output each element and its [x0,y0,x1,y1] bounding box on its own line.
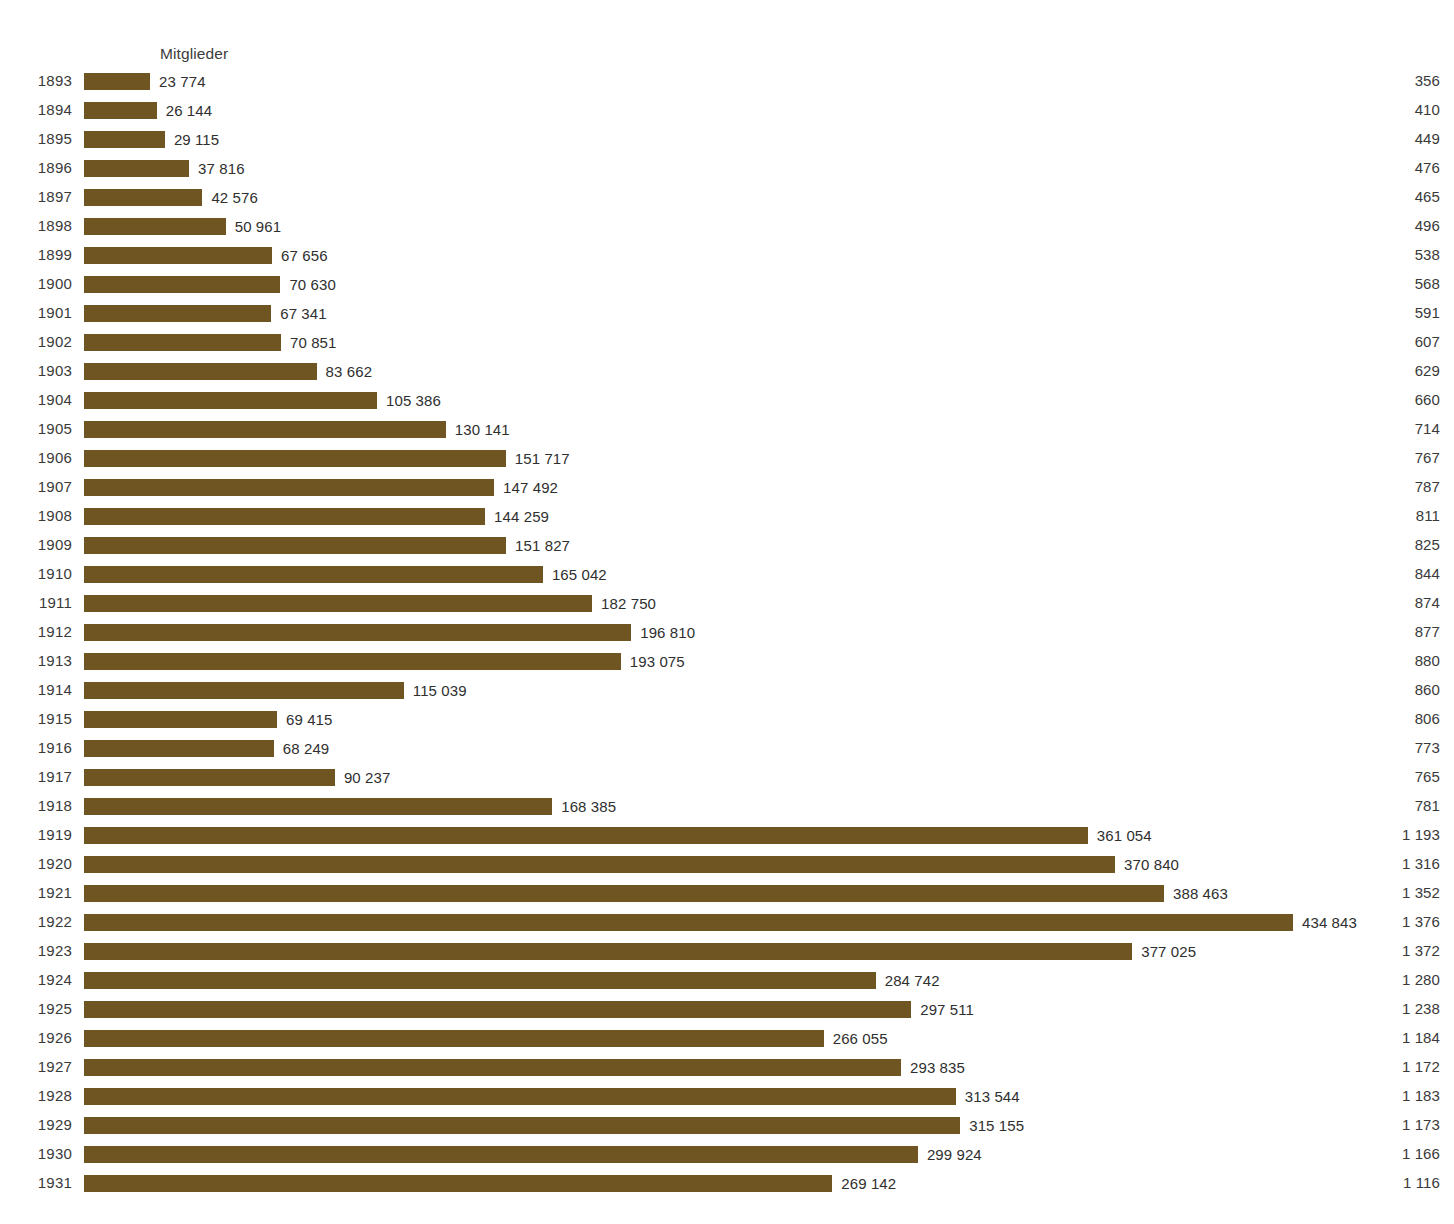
row-right-value: 496 [1415,217,1440,235]
chart-row: 1905130 141714 [0,420,1454,449]
bar-value-label: 90 237 [344,769,390,786]
bar-value-label: 370 840 [1124,856,1179,873]
chart-rows: 189323 774356189426 144410189529 1154491… [0,72,1454,1203]
row-right-value: 844 [1415,565,1440,583]
row-year-label: 1893 [0,72,72,90]
row-right-value: 767 [1415,449,1440,467]
bar-container: 165 042 [84,566,607,583]
bar-container: 67 656 [84,247,328,264]
bar-value-label: 151 717 [515,450,570,467]
row-year-label: 1896 [0,159,72,177]
bar-container: 196 810 [84,624,695,641]
bar-value-label: 69 415 [286,711,332,728]
chart-row: 1906151 717767 [0,449,1454,478]
bar [84,595,592,612]
bar-container: 70 851 [84,334,336,351]
bar [84,943,1132,960]
chart-row: 1922434 8431 376 [0,913,1454,942]
bar-value-label: 182 750 [601,595,656,612]
bar-container: 293 835 [84,1059,965,1076]
bar [84,102,157,119]
bar-value-label: 165 042 [552,566,607,583]
bar-value-label: 70 851 [290,334,336,351]
row-right-value: 773 [1415,739,1440,757]
bar-container: 313 544 [84,1088,1020,1105]
bar-container: 50 961 [84,218,281,235]
chart-row: 1925297 5111 238 [0,1000,1454,1029]
bar-value-label: 23 774 [159,73,205,90]
bar [84,479,494,496]
bar [84,827,1088,844]
chart-row: 1921388 4631 352 [0,884,1454,913]
bar [84,189,202,206]
chart-row: 191668 249773 [0,739,1454,768]
row-year-label: 1904 [0,391,72,409]
row-right-value: 476 [1415,159,1440,177]
bar-container: 388 463 [84,885,1228,902]
bar-value-label: 388 463 [1173,885,1228,902]
bar-value-label: 297 511 [920,1001,974,1018]
bar-container: 90 237 [84,769,390,786]
bar-container: 370 840 [84,856,1179,873]
bar [84,421,446,438]
chart-row: 189967 656538 [0,246,1454,275]
row-right-value: 1 372 [1402,942,1440,960]
chart-row: 1907147 492787 [0,478,1454,507]
row-right-value: 1 173 [1402,1116,1440,1134]
chart-row: 1923377 0251 372 [0,942,1454,971]
bar [84,1088,956,1105]
bar-value-label: 83 662 [326,363,372,380]
row-year-label: 1897 [0,188,72,206]
row-year-label: 1922 [0,913,72,931]
row-right-value: 1 376 [1402,913,1440,931]
chart-row: 189323 774356 [0,72,1454,101]
row-right-value: 356 [1415,72,1440,90]
bar-value-label: 130 141 [455,421,510,438]
bar-value-label: 193 075 [630,653,685,670]
bar-value-label: 67 341 [280,305,326,322]
bar [84,711,277,728]
bar-value-label: 68 249 [283,740,329,757]
row-right-value: 607 [1415,333,1440,351]
bar [84,276,280,293]
chart-row: 1926266 0551 184 [0,1029,1454,1058]
row-year-label: 1921 [0,884,72,902]
bar-value-label: 50 961 [235,218,281,235]
bar [84,537,506,554]
bar-value-label: 70 630 [289,276,335,293]
row-right-value: 591 [1415,304,1440,322]
row-year-label: 1924 [0,971,72,989]
chart-row: 190270 851607 [0,333,1454,362]
value-column-header: Mitglieder [160,45,228,63]
row-year-label: 1905 [0,420,72,438]
bar-container: 70 630 [84,276,336,293]
bar-value-label: 299 924 [927,1146,982,1163]
bar-container: 297 511 [84,1001,974,1018]
bar-value-label: 168 385 [561,798,616,815]
bar-container: 315 155 [84,1117,1024,1134]
row-right-value: 1 183 [1402,1087,1440,1105]
row-year-label: 1910 [0,565,72,583]
row-year-label: 1894 [0,101,72,119]
row-right-value: 765 [1415,768,1440,786]
bar-value-label: 115 039 [413,682,467,699]
bar-value-label: 315 155 [969,1117,1024,1134]
chart-row: 1914115 039860 [0,681,1454,710]
bar-container: 284 742 [84,972,940,989]
chart-row: 1919361 0541 193 [0,826,1454,855]
row-year-label: 1915 [0,710,72,728]
bar [84,740,274,757]
row-year-label: 1923 [0,942,72,960]
row-right-value: 874 [1415,594,1440,612]
row-right-value: 1 172 [1402,1058,1440,1076]
bar-container: 23 774 [84,73,206,90]
chart-row: 1920370 8401 316 [0,855,1454,884]
bar-container: 29 115 [84,131,219,148]
bar-value-label: 284 742 [885,972,940,989]
row-right-value: 1 193 [1402,826,1440,844]
bar [84,1117,960,1134]
row-year-label: 1918 [0,797,72,815]
chart-row: 189426 144410 [0,101,1454,130]
bar [84,1030,824,1047]
chart-row: 1928313 5441 183 [0,1087,1454,1116]
